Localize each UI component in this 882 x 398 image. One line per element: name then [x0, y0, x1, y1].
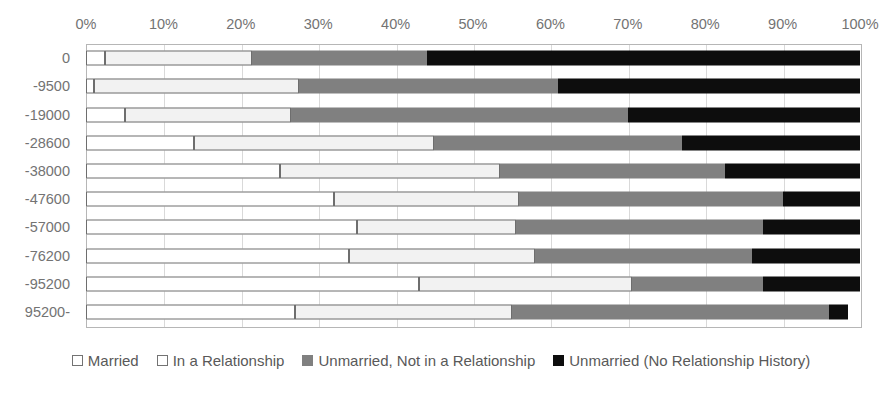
bar-segment [519, 192, 782, 207]
bar-segment [295, 304, 512, 319]
bar-segment [434, 135, 682, 150]
legend-swatch-icon [72, 355, 83, 366]
legend-item[interactable]: Married [72, 352, 139, 369]
bar-segment [280, 163, 501, 178]
bar-segment [125, 107, 291, 122]
bar-row [86, 163, 860, 178]
bar-row [86, 304, 860, 319]
bar-segment [512, 304, 829, 319]
legend-item[interactable]: Unmarried (No Relationship History) [553, 352, 810, 369]
x-axis-tick-labels: 0%10%20%30%40%50%60%70%80%90%100% [86, 16, 860, 38]
bar-segment [252, 51, 426, 66]
legend-label: Unmarried (No Relationship History) [569, 352, 810, 369]
bar-row [86, 220, 860, 235]
bar-segment [86, 79, 94, 94]
legend-swatch-icon [553, 355, 564, 366]
bar-segment [752, 248, 860, 263]
stacked-bar-chart: 0%10%20%30%40%50%60%70%80%90%100% 0-9500… [0, 0, 882, 398]
bar-segment [105, 51, 252, 66]
bar-segment [763, 276, 860, 291]
bar-segment [86, 220, 357, 235]
bar-segment [725, 163, 860, 178]
y-axis-tick-6: -57000 [25, 219, 70, 235]
bar-segment [682, 135, 860, 150]
bar-row [86, 51, 860, 66]
bar-row [86, 276, 860, 291]
y-axis-tick-7: -76200 [25, 248, 70, 264]
bar-segment [558, 79, 860, 94]
bar-segment [419, 276, 632, 291]
bar-row [86, 248, 860, 263]
x-axis-tick-100: 100% [841, 16, 878, 32]
bar-segment [829, 304, 848, 319]
bar-segment [334, 192, 520, 207]
chart-legend: MarriedIn a RelationshipUnmarried, Not i… [0, 352, 882, 369]
bar-segment [535, 248, 752, 263]
bar-segment [194, 135, 434, 150]
bar-segment [86, 163, 280, 178]
bar-segment [86, 51, 105, 66]
y-axis-tick-2: -19000 [25, 107, 70, 123]
bar-segment [516, 220, 764, 235]
bar-segment [783, 192, 860, 207]
bar-row [86, 79, 860, 94]
x-axis-tick-20: 20% [226, 16, 255, 32]
legend-item[interactable]: In a Relationship [157, 352, 285, 369]
x-axis-tick-30: 30% [304, 16, 333, 32]
x-axis-tick-60: 60% [536, 16, 565, 32]
bar-segment [427, 51, 860, 66]
y-axis-tick-1: -9500 [33, 78, 70, 94]
bar-segment [86, 192, 334, 207]
bar-segment [500, 163, 724, 178]
bar-segment [86, 248, 349, 263]
y-axis-category-labels: 0-9500-19000-28600-38000-47600-57000-762… [0, 44, 80, 326]
legend-label: Unmarried, Not in a Relationship [318, 352, 535, 369]
bar-segment [86, 135, 194, 150]
x-axis-tick-40: 40% [381, 16, 410, 32]
y-axis-tick-5: -47600 [25, 191, 70, 207]
bar-segment [86, 107, 125, 122]
bar-row [86, 107, 860, 122]
legend-label: In a Relationship [173, 352, 285, 369]
bars-layer [86, 44, 860, 326]
legend-item[interactable]: Unmarried, Not in a Relationship [302, 352, 535, 369]
y-axis-tick-8: -95200 [25, 276, 70, 292]
legend-swatch-icon [302, 355, 313, 366]
x-axis-tick-90: 90% [768, 16, 797, 32]
x-axis-tick-80: 80% [691, 16, 720, 32]
bar-segment [632, 276, 764, 291]
bar-segment [291, 107, 628, 122]
bar-segment [763, 220, 860, 235]
bar-segment [628, 107, 860, 122]
y-axis-tick-4: -38000 [25, 163, 70, 179]
bar-row [86, 135, 860, 150]
x-axis-tick-70: 70% [613, 16, 642, 32]
y-axis-tick-9: 95200- [25, 304, 70, 320]
bar-segment [94, 79, 299, 94]
x-axis-tick-0: 0% [76, 16, 97, 32]
bar-segment [349, 248, 535, 263]
bar-segment [299, 79, 558, 94]
legend-swatch-icon [157, 355, 168, 366]
x-axis-tick-50: 50% [458, 16, 487, 32]
y-axis-tick-0: 0 [62, 50, 70, 66]
x-axis-tick-10: 10% [149, 16, 178, 32]
bar-segment [86, 304, 295, 319]
bar-segment [86, 276, 419, 291]
bar-row [86, 192, 860, 207]
legend-label: Married [88, 352, 139, 369]
y-axis-tick-3: -28600 [25, 135, 70, 151]
bar-segment [357, 220, 516, 235]
